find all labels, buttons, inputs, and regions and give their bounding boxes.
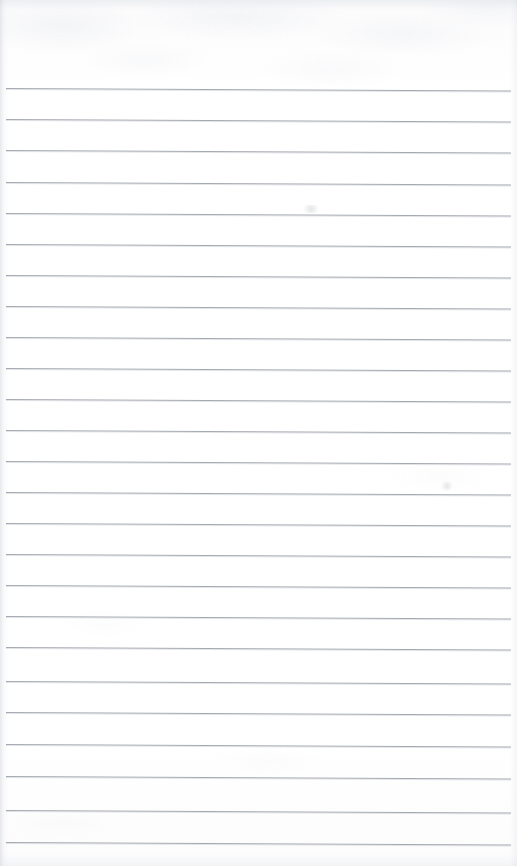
ruled-line — [6, 492, 511, 495]
ruled-line — [6, 554, 511, 557]
ruled-line — [6, 647, 511, 650]
ruled-line — [6, 681, 511, 684]
ruled-line — [6, 399, 511, 402]
ruled-line — [6, 585, 511, 588]
ruled-line — [6, 776, 511, 779]
ruled-line — [6, 213, 511, 216]
ruled-lines-layer — [0, 0, 517, 866]
ruled-line — [6, 88, 511, 91]
ruled-line — [6, 842, 511, 845]
notebook-page — [0, 0, 517, 866]
ruled-line — [6, 306, 511, 309]
ruled-line — [6, 523, 511, 526]
ruled-line — [6, 744, 511, 747]
ruled-line — [6, 119, 511, 122]
ruled-line — [6, 616, 511, 619]
ruled-line — [6, 275, 511, 278]
ruled-line — [6, 337, 511, 340]
ruled-line — [6, 182, 511, 185]
ruled-line — [6, 244, 511, 247]
ruled-line — [6, 150, 511, 153]
ruled-line — [6, 430, 511, 433]
ruled-line — [6, 712, 511, 715]
ruled-line — [6, 368, 511, 371]
ruled-line — [6, 461, 511, 464]
ruled-line — [6, 810, 511, 813]
